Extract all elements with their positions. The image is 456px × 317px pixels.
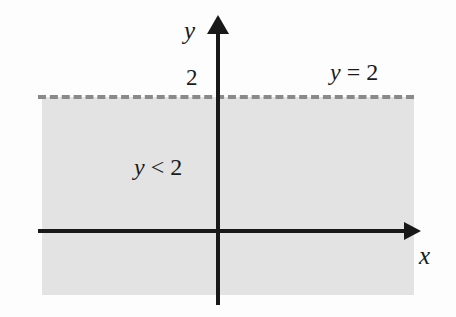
boundary-label-operator: = — [347, 59, 361, 85]
y-axis-label: y — [184, 18, 195, 43]
boundary-line-label: y = 2 — [330, 60, 378, 84]
x-axis-arrow-icon — [404, 222, 421, 240]
region-label-variable: y — [134, 154, 145, 180]
shaded-solution-region — [42, 97, 414, 295]
x-axis-label: x — [419, 243, 430, 268]
region-inequality-label: y < 2 — [134, 155, 182, 179]
y-axis-line — [216, 30, 220, 305]
boundary-label-value: 2 — [366, 59, 378, 85]
inequality-graph-figure: y x 2 y = 2 y < 2 — [0, 0, 456, 317]
region-label-operator: < — [151, 154, 165, 180]
y-axis-arrow-icon — [207, 15, 229, 34]
boundary-label-variable: y — [330, 59, 341, 85]
y-tick-label-2: 2 — [186, 66, 198, 89]
boundary-dashed-line — [38, 95, 414, 99]
region-label-value: 2 — [170, 154, 182, 180]
x-axis-line — [38, 229, 410, 233]
